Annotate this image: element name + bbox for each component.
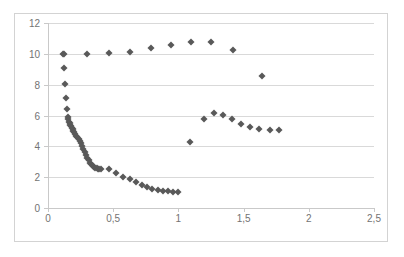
x-tick-label: 0,5	[106, 213, 120, 224]
x-tick-label: 2	[306, 213, 312, 224]
x-tick-mark	[48, 208, 49, 212]
x-tick-mark	[309, 208, 310, 212]
x-tick-mark	[374, 208, 375, 212]
x-tick-label: 0	[45, 213, 51, 224]
x-tick-mark	[244, 208, 245, 212]
x-tick-mark	[178, 208, 179, 212]
x-tick-label: 1	[176, 213, 182, 224]
scatter-chart: 024681012 00,511,522,5	[0, 0, 404, 257]
x-tick-label: 2,5	[367, 213, 381, 224]
x-tick-label: 1,5	[237, 213, 251, 224]
x-tick-mark	[113, 208, 114, 212]
x-axis-tick-labels: 00,511,522,5	[0, 0, 404, 257]
